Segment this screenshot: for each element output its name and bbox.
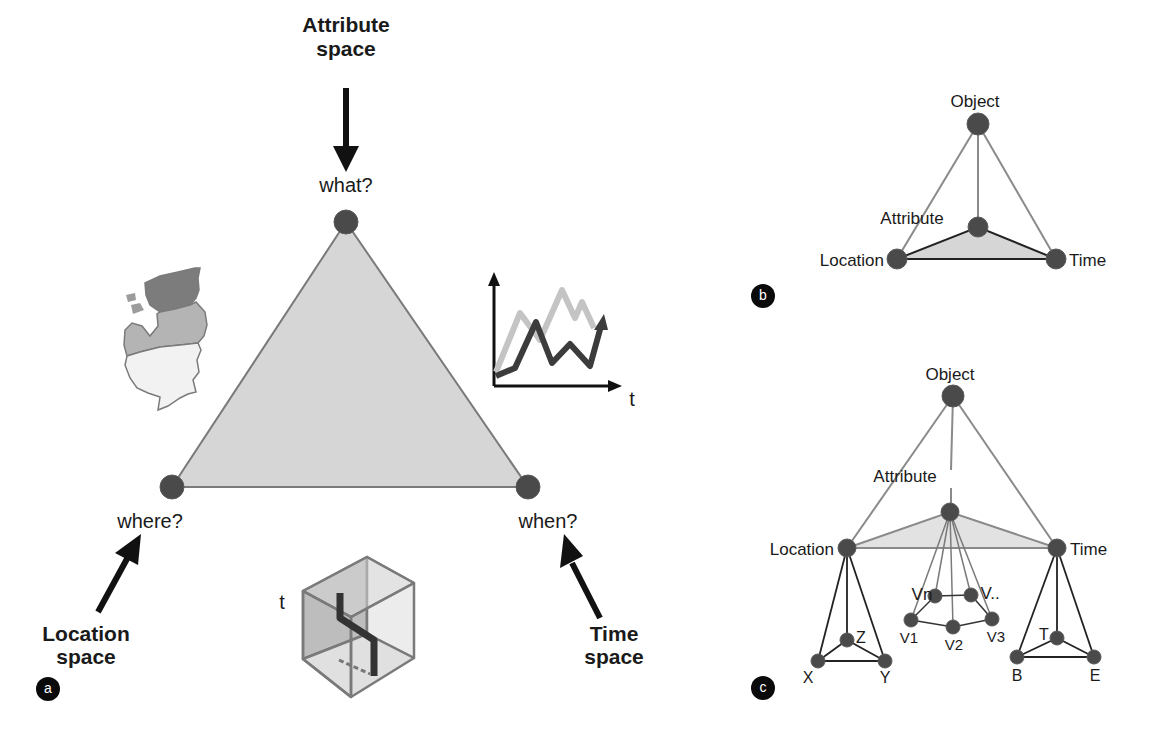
node-attribute: [941, 503, 959, 521]
baltic-states-map-icon: [124, 268, 207, 410]
node-t: [1050, 631, 1064, 645]
svg-text:a: a: [44, 680, 52, 696]
node-attribute: [968, 217, 988, 237]
node-e: [1087, 650, 1101, 664]
attribute-space-label-1: Attribute: [302, 13, 390, 36]
x-label: X: [803, 669, 814, 686]
what-label: what?: [318, 174, 372, 196]
panel-a-badge: a: [36, 677, 60, 701]
v1-label: V1: [900, 629, 918, 646]
when-label: when?: [518, 510, 578, 532]
node-object: [942, 385, 964, 407]
location-label: Location: [770, 540, 834, 559]
chart-t-axis-label: t: [629, 388, 635, 410]
b-label: B: [1012, 667, 1023, 684]
node-vdots: [964, 588, 978, 602]
attribute-space-label-2: space: [316, 37, 376, 60]
node-v2: [946, 620, 960, 634]
space-time-cube-icon: t: [279, 557, 414, 697]
panel-b-badge: b: [751, 284, 775, 308]
svg-text:c: c: [760, 679, 767, 695]
panel-a: Attribute space what? where? Location sp…: [36, 13, 644, 701]
arrow-up-left-icon: [560, 534, 600, 618]
object-label: Object: [950, 92, 999, 111]
triad-diagram: Attribute space what? where? Location sp…: [0, 0, 1154, 737]
e-label: E: [1090, 667, 1101, 684]
v2-label: V2: [945, 636, 963, 653]
arrow-up-right-icon: [98, 534, 141, 612]
node-v3: [985, 612, 999, 626]
object-label: Object: [925, 365, 974, 384]
panel-c-badge: c: [751, 676, 775, 700]
node-v1: [904, 613, 918, 627]
v3-label: V3: [987, 628, 1005, 645]
vertex-what: [334, 210, 358, 234]
location-space-label-1: Location: [42, 622, 130, 645]
node-object: [967, 113, 989, 135]
time-label: Time: [1069, 251, 1106, 270]
node-x: [811, 654, 825, 668]
time-space-label-1: Time: [590, 622, 639, 645]
cube-t-axis-label: t: [279, 591, 285, 613]
y-label: Y: [880, 669, 891, 686]
panel-c: Object Attribute Location Time X Y Z B E…: [751, 365, 1107, 700]
line-chart-icon: t: [488, 272, 635, 410]
attribute-label: Attribute: [880, 209, 943, 228]
vdots-label: V..: [980, 584, 999, 603]
location-label: Location: [820, 251, 884, 270]
where-label: where?: [116, 510, 183, 532]
node-z: [840, 633, 854, 647]
node-y: [878, 654, 892, 668]
location-space-label-2: space: [56, 645, 116, 668]
svg-text:b: b: [759, 287, 767, 303]
vertex-where: [160, 475, 184, 499]
time-space-label-2: space: [584, 645, 644, 668]
vn-label: Vn: [912, 585, 933, 604]
z-label: Z: [856, 629, 866, 646]
vertex-when: [516, 475, 540, 499]
attribute-label: Attribute: [873, 467, 936, 486]
main-triangle: [172, 222, 528, 487]
arrow-down-icon: [333, 88, 359, 172]
node-time: [1048, 539, 1066, 557]
panel-b: Object Attribute Location Time b: [751, 92, 1106, 308]
node-location: [838, 539, 856, 557]
node-time: [1046, 249, 1066, 269]
node-location: [887, 249, 907, 269]
node-b: [1010, 650, 1024, 664]
time-label: Time: [1070, 540, 1107, 559]
t-label: T: [1039, 626, 1049, 643]
